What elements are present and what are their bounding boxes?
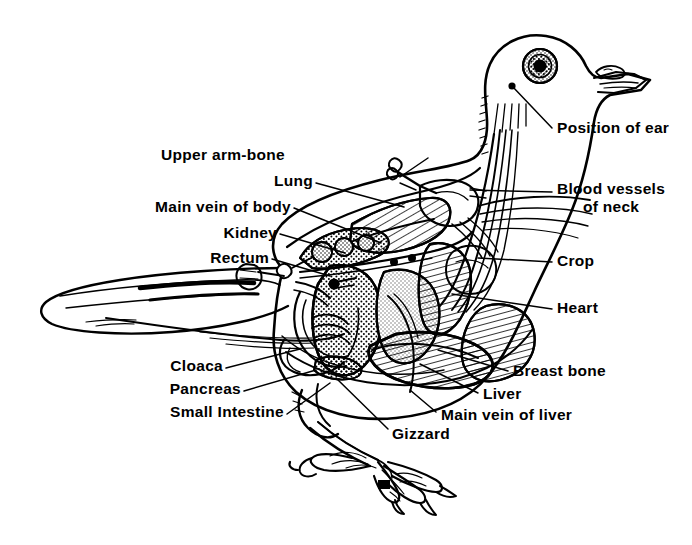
label-kidney: Kidney	[224, 224, 277, 242]
label-main-vein-of-liver: Main vein of liver	[441, 406, 572, 424]
leader-cloaca	[226, 349, 300, 368]
head	[479, 49, 646, 154]
label-pancreas: Pancreas	[170, 380, 241, 398]
label-blood-vessels-of-neck: Blood vessels of neck	[557, 180, 665, 216]
label-main-vein-of-body: Main vein of body	[155, 198, 291, 216]
label-cloaca: Cloaca	[170, 357, 223, 375]
label-small-intestine: Small Intestine	[170, 403, 284, 421]
leader-upper-arm-bone	[400, 158, 428, 177]
label-rectum: Rectum	[210, 249, 269, 267]
tail	[41, 268, 344, 348]
bird-anatomy-illustration	[0, 0, 692, 545]
label-upper-arm-bone: Upper arm-bone	[161, 146, 285, 164]
heart-organ	[419, 243, 471, 334]
label-blood-vessels-line2: of neck	[557, 198, 665, 216]
label-crop: Crop	[557, 252, 594, 270]
label-heart: Heart	[557, 299, 598, 317]
label-position-of-ear: Position of ear	[557, 119, 669, 137]
leader-pancreas	[244, 370, 316, 391]
leader-main-vein-of-liver	[410, 390, 436, 412]
label-blood-vessels-line1: Blood vessels	[557, 180, 665, 197]
label-liver: Liver	[483, 385, 522, 403]
leader-crop	[478, 258, 552, 262]
leader-blood-vessels-of-neck	[470, 190, 552, 192]
label-gizzard: Gizzard	[392, 425, 450, 443]
label-breast-bone: Breast bone	[513, 362, 606, 380]
leader-gizzard	[336, 378, 388, 429]
label-lung: Lung	[274, 172, 313, 190]
diagram-canvas: Upper arm-bone Lung Main vein of body Ki…	[0, 0, 692, 545]
